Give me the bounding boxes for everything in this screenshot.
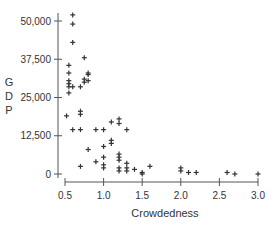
y-tick-label: 37,500	[20, 54, 51, 65]
data-point	[70, 127, 75, 132]
x-axis-title: Crowdedness	[131, 207, 199, 219]
data-point	[117, 121, 122, 126]
y-tick-label: 0	[45, 169, 51, 180]
y-axis-title: GDP	[5, 76, 14, 116]
data-point	[109, 141, 114, 146]
data-point	[78, 112, 83, 117]
y-tick-label: 25,000	[20, 92, 51, 103]
data-point	[124, 161, 129, 166]
data-point	[101, 144, 106, 149]
x-tick-label: 0.5	[58, 190, 72, 201]
scatter-chart: 012,50025,00037,50050,000 0.51.01.52.02.…	[0, 0, 280, 228]
y-tick-label: 50,000	[20, 16, 51, 27]
data-point	[147, 164, 152, 169]
data-point	[101, 155, 106, 160]
data-point	[194, 170, 199, 175]
data-point	[64, 113, 69, 118]
x-tick-label: 1.5	[135, 190, 149, 201]
data-point	[78, 84, 83, 89]
data-point	[66, 90, 71, 95]
y-axis-title-letter: P	[5, 104, 12, 116]
data-point	[70, 84, 75, 89]
data-point	[78, 127, 83, 132]
data-point	[124, 127, 129, 132]
x-axis: 0.51.01.52.02.53.0	[58, 178, 265, 201]
y-axis-title-letter: G	[5, 76, 14, 88]
data-point	[132, 167, 137, 172]
data-point	[93, 127, 98, 132]
data-point	[70, 22, 75, 27]
data-point	[186, 170, 191, 175]
x-tick-label: 2.0	[174, 190, 188, 201]
x-tick-label: 1.0	[97, 190, 111, 201]
data-point	[82, 55, 87, 60]
data-point	[86, 147, 91, 152]
data-point	[117, 116, 122, 121]
data-point	[101, 127, 106, 132]
data-point	[232, 172, 237, 177]
data-point	[124, 168, 129, 173]
data-point	[70, 12, 75, 17]
data-point	[117, 158, 122, 163]
data-point	[66, 71, 71, 76]
data-points	[64, 12, 260, 176]
data-point	[78, 164, 83, 169]
data-point	[93, 159, 98, 164]
y-axis: 012,50025,00037,50050,000	[20, 13, 62, 180]
y-axis-title-letter: D	[5, 90, 13, 102]
data-point	[101, 165, 106, 170]
data-point	[178, 168, 183, 173]
data-point	[225, 170, 230, 175]
x-tick-label: 3.0	[251, 190, 265, 201]
data-point	[66, 63, 71, 68]
y-tick-label: 12,500	[20, 130, 51, 141]
data-point	[117, 168, 122, 173]
data-point	[256, 172, 261, 177]
data-point	[109, 119, 114, 124]
data-point	[70, 40, 75, 45]
x-tick-label: 2.5	[212, 190, 226, 201]
